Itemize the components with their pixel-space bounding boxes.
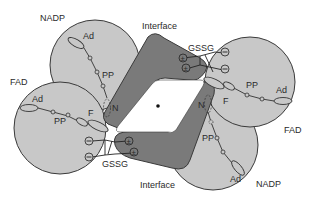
label-gssg-bottom: GSSG: [102, 159, 128, 169]
charge-label: ±: [184, 64, 189, 73]
label-f-right: F: [223, 96, 229, 106]
label-pp-fad-left: PP: [54, 116, 66, 126]
label-ad-fad-right: Ad: [276, 85, 287, 95]
label-fad-left: FAD: [10, 77, 28, 87]
label-n-left: N: [112, 103, 119, 113]
p-node: [260, 97, 264, 101]
label-n-right: N: [198, 100, 205, 110]
diagram-canvas: ± ± ± ± NADP Interface GSSG FAD Ad PP Ad…: [0, 0, 313, 210]
label-nadp-bottom: NADP: [256, 179, 281, 189]
p-node: [101, 84, 105, 88]
glutathione-reductase-diagram: ± ± ± ± NADP Interface GSSG FAD Ad PP Ad…: [0, 0, 313, 210]
p-node: [51, 110, 55, 114]
label-f-left: F: [88, 108, 94, 118]
label-interface-bottom: Interface: [140, 180, 175, 190]
label-fad-right: FAD: [284, 125, 302, 135]
p-node: [221, 150, 225, 154]
label-ad-fad-left: Ad: [32, 94, 43, 104]
label-ad-nadp-bottom: Ad: [230, 174, 241, 184]
p-node: [209, 120, 213, 124]
ad-oval-fad-right: [274, 98, 292, 105]
ad-oval-fad-left: [20, 105, 38, 112]
p-node: [66, 113, 70, 117]
label-pp-nadp-top: PP: [102, 70, 114, 80]
label-interface-top: Interface: [142, 21, 177, 31]
p-node: [215, 136, 219, 140]
label-nadp-top: NADP: [40, 13, 65, 23]
p-node: [245, 93, 249, 97]
charge-label: ±: [181, 54, 186, 63]
p-node: [95, 70, 99, 74]
charge-label: ±: [132, 148, 137, 157]
fad-domain-left: [14, 82, 106, 174]
charge-label: ±: [127, 137, 132, 146]
label-ad-nadp-top: Ad: [83, 31, 94, 41]
label-pp-nadp-bottom: PP: [202, 133, 214, 143]
label-gssg-top: GSSG: [188, 43, 214, 53]
label-pp-fad-right: PP: [246, 80, 258, 90]
twofold-axis-dot: [156, 104, 160, 108]
p-node: [88, 56, 92, 60]
